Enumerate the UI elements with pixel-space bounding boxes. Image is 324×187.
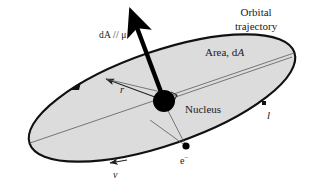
electron-label-charge: −: [184, 154, 188, 162]
electron-label: e−: [180, 155, 188, 166]
area-label-symbol: A: [237, 46, 244, 58]
velocity-vector: [110, 160, 127, 163]
orbital-trajectory-line1: Orbital: [235, 6, 277, 20]
nucleus-dot: [153, 90, 175, 112]
electron-dot: [182, 142, 189, 149]
radius-label: r: [120, 85, 124, 96]
angular-momentum-tick: [262, 101, 266, 105]
nucleus-label: Nucleus: [185, 104, 221, 115]
area-label: Area, dA: [205, 47, 244, 58]
orbital-trajectory-line2: trajectory: [235, 20, 277, 34]
area-vector-label: dA // μ: [99, 31, 127, 41]
angular-momentum-label: l: [267, 110, 270, 121]
diagram-canvas: Orbital trajectory Area, dA dA // μ Nucl…: [0, 0, 324, 187]
area-label-prefix: Area, d: [205, 46, 237, 58]
velocity-label: v: [113, 170, 117, 180]
orbital-trajectory-label: Orbital trajectory: [235, 6, 277, 34]
